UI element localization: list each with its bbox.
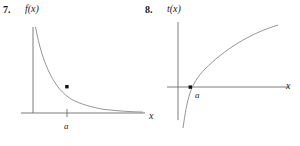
figure-7-plot [0, 0, 155, 146]
tick-label-a: a [64, 121, 69, 131]
curve-fx [36, 27, 144, 112]
figure-7: 7. f(x) x a [0, 0, 155, 146]
figure-8-plot [145, 0, 300, 146]
tick-label-a: a [195, 90, 200, 100]
x-axis-label: x [286, 80, 290, 91]
point-marker-a [189, 85, 192, 88]
point-marker-a [65, 85, 68, 88]
figure-page: 7. f(x) x a 8. t(x) [0, 0, 300, 146]
curve-tx [183, 25, 278, 128]
figure-8: 8. t(x) x a [145, 0, 300, 146]
